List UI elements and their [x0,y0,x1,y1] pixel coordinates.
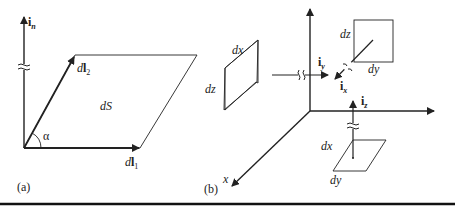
break-mark-icon [18,64,30,70]
label-ix: ix [340,79,347,95]
caption-b: (b) [204,182,218,196]
break-mark-icon [298,70,305,80]
angle-arc [32,133,41,148]
panel-b: x dx dz iy dz dy ix dx dy iz [204,9,434,196]
plane-dzdy [354,20,393,62]
label-dl1: dl1 [125,155,138,171]
label-iz: iz [361,94,368,110]
label-dz-xz: dz [340,27,351,41]
label-ds: dS [100,99,112,113]
label-axis-x: x [222,172,229,186]
label-dl2: dl2 [77,61,90,77]
label-in: in [28,15,36,31]
label-iy: iy [318,55,325,71]
label-dy-xz: dy [368,62,380,76]
label-dz-yz: dz [205,82,216,96]
label-dy-xy: dy [330,173,342,187]
plane-dxdy [333,140,386,171]
axis-x [232,111,310,186]
diagram-canvas: in dl2 dS α dl1 (a) x dx dz iy dz dy [0,0,455,209]
caption-a: (a) [17,180,30,194]
label-dx-xy: dx [321,139,333,153]
label-dx-yz: dx [232,43,244,57]
label-alpha: α [43,129,50,143]
panel-a: in dl2 dS α dl1 (a) [17,15,197,194]
break-mark-icon [347,123,359,129]
